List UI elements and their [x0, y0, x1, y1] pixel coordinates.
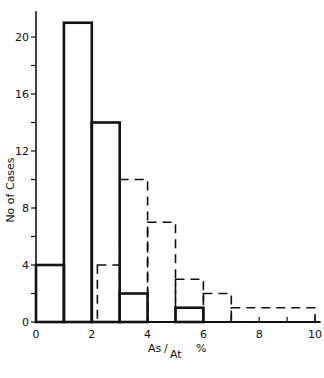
x-axis-title: As / At % [148, 342, 206, 361]
dashed-histogram-bar [176, 279, 204, 322]
y-tick-label: 0 [22, 316, 29, 329]
solid-series [36, 23, 203, 322]
solid-histogram-bar [120, 294, 148, 323]
x-tick-label: 8 [256, 328, 263, 341]
svg-text:/: / [164, 342, 168, 355]
y-tick-label: 8 [22, 202, 29, 215]
dashed-histogram-bar [203, 294, 231, 323]
svg-text:At: At [170, 348, 182, 361]
axes: 0481216200246810 [15, 11, 322, 341]
y-tick-label: 12 [15, 145, 29, 158]
y-axis-title: No of Cases [4, 157, 17, 222]
y-tick-label: 16 [15, 88, 29, 101]
svg-text:%: % [196, 342, 206, 355]
solid-histogram-bar [176, 308, 204, 322]
dashed-histogram-bar [231, 308, 315, 322]
x-tick-label: 6 [200, 328, 207, 341]
histogram-chart: 0481216200246810 No of Cases As / At % [0, 0, 324, 378]
dashed-series [97, 180, 315, 323]
solid-histogram-bar [64, 23, 92, 322]
x-tick-label: 4 [144, 328, 151, 341]
y-tick-label: 4 [22, 259, 29, 272]
svg-text:As: As [148, 342, 162, 355]
x-tick-label: 10 [308, 328, 322, 341]
dashed-histogram-bar [148, 222, 176, 322]
dashed-histogram-bar [97, 265, 119, 322]
solid-histogram-bar [92, 123, 120, 323]
dashed-histogram-bar [120, 180, 148, 323]
x-tick-label: 0 [33, 328, 40, 341]
x-tick-label: 2 [88, 328, 95, 341]
solid-histogram-bar [36, 265, 64, 322]
y-tick-label: 20 [15, 31, 29, 44]
